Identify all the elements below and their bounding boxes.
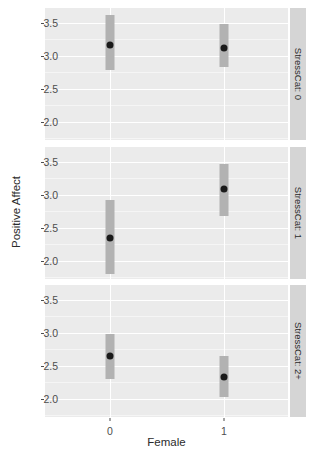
gridline-major xyxy=(45,366,288,367)
gridline-vertical xyxy=(224,285,225,417)
gridline-major xyxy=(45,89,288,90)
y-tick-mark xyxy=(41,366,44,367)
gridline-major xyxy=(45,56,288,57)
facet-strip: StressCat: 0 xyxy=(290,8,306,140)
y-tick-mark xyxy=(41,300,44,301)
y-tick-label: 3.5 xyxy=(18,294,58,306)
y-tick-mark xyxy=(41,122,44,123)
y-tick-mark xyxy=(41,228,44,229)
facet-strip-label: StressCat: 0 xyxy=(293,48,304,100)
gridline-major xyxy=(45,399,288,400)
gridline-minor xyxy=(45,244,288,245)
y-tick-label: 2.5 xyxy=(18,360,58,372)
facet-plot: Positive Affect Female StressCat: 0Stres… xyxy=(0,0,317,456)
y-tick-label: 2.0 xyxy=(18,116,58,128)
y-tick-mark xyxy=(41,89,44,90)
y-tick-label: 3.0 xyxy=(18,327,58,339)
gridline-major xyxy=(45,261,288,262)
x-axis-title: Female xyxy=(45,436,288,448)
y-tick-mark xyxy=(41,399,44,400)
gridline-minor xyxy=(45,382,288,383)
gridline-minor xyxy=(45,178,288,179)
gridline-minor xyxy=(45,105,288,106)
y-tick-label: 2.0 xyxy=(18,393,58,405)
gridline-major xyxy=(45,333,288,334)
data-point xyxy=(107,235,114,242)
x-tick-label: 0 xyxy=(95,425,125,437)
x-tick-mark xyxy=(110,418,111,421)
y-tick-mark xyxy=(41,195,44,196)
gridline-minor xyxy=(45,39,288,40)
facet-strip: StressCat: 1 xyxy=(290,147,306,279)
gridline-minor xyxy=(45,138,288,139)
gridline-major xyxy=(45,162,288,163)
facet-strip: StressCat: 2+ xyxy=(290,285,306,417)
gridline-major xyxy=(45,122,288,123)
facet-panel xyxy=(45,8,288,140)
gridline-major xyxy=(45,300,288,301)
x-tick-mark xyxy=(224,418,225,421)
gridline-minor xyxy=(45,316,288,317)
y-tick-label: 3.5 xyxy=(18,17,58,29)
data-point xyxy=(221,186,228,193)
y-tick-mark xyxy=(41,23,44,24)
facet-panel xyxy=(45,147,288,279)
x-tick-label: 1 xyxy=(209,425,239,437)
facet-strip-label: StressCat: 2+ xyxy=(293,322,304,380)
y-tick-label: 2.5 xyxy=(18,83,58,95)
gridline-minor xyxy=(45,72,288,73)
y-tick-mark xyxy=(41,261,44,262)
gridline-minor xyxy=(45,211,288,212)
gridline-minor xyxy=(45,415,288,416)
y-tick-mark xyxy=(41,162,44,163)
gridline-major xyxy=(45,228,288,229)
y-tick-label: 3.5 xyxy=(18,156,58,168)
y-tick-label: 2.0 xyxy=(18,255,58,267)
data-point xyxy=(107,353,114,360)
gridline-major xyxy=(45,23,288,24)
data-point xyxy=(107,41,114,48)
y-tick-label: 3.0 xyxy=(18,189,58,201)
data-point xyxy=(221,44,228,51)
y-tick-label: 2.5 xyxy=(18,222,58,234)
gridline-minor xyxy=(45,277,288,278)
gridline-minor xyxy=(45,349,288,350)
y-tick-mark xyxy=(41,333,44,334)
gridline-major xyxy=(45,195,288,196)
y-tick-label: 3.0 xyxy=(18,50,58,62)
facet-panel xyxy=(45,285,288,417)
y-tick-mark xyxy=(41,56,44,57)
data-point xyxy=(221,373,228,380)
facet-strip-label: StressCat: 1 xyxy=(293,187,304,239)
